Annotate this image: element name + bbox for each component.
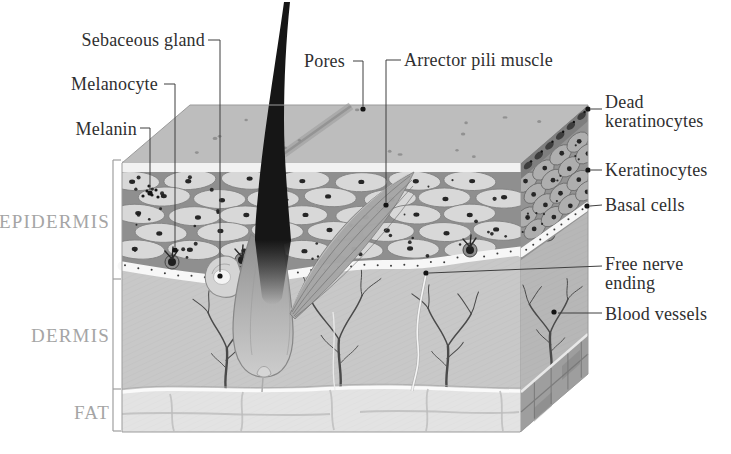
skin-surface [122,105,588,163]
leader-dot-arrector-pili [383,202,388,207]
leader-pores [353,61,363,106]
skin-anatomy-figure: { "diagram": { "type": "skin-cross-secti… [0,0,731,454]
leader-dot-pores [360,106,365,111]
layer-bracket [113,160,121,431]
leader-dot-melanocyte [172,247,177,252]
label-melanocyte: Melanocyte [71,75,158,94]
label-blood-vessels: Blood vessels [605,305,707,324]
label-layer-fat: FAT [74,402,110,424]
label-keratinocytes: Keratinocytes [605,161,708,180]
leader-dot-basal-cells [584,203,589,208]
label-layer-epidermis: EPIDERMIS [0,211,110,233]
label-arrector-pili-muscle: Arrector pili muscle [404,51,553,70]
leader-dot-sebaceous-gland [217,273,222,278]
papilla-stalk [262,377,263,392]
label-dead-keratinocytes: Dead keratinocytes [605,93,704,131]
label-pores: Pores [304,52,345,71]
label-melanin: Melanin [76,120,137,139]
leader-dot-blood-vessels [551,309,556,314]
leader-dot-keratinocytes [585,167,590,172]
leader-dot-melanin [147,190,152,195]
label-sebaceous-gland: Sebaceous gland [82,31,205,50]
label-layer-dermis: DERMIS [31,325,110,347]
leader-dot-dead-keratinocytes [585,106,590,111]
label-free-nerve-ending: Free nerve ending [605,255,683,293]
leader-dot-free-nerve-ending [423,270,428,275]
label-basal-cells: Basal cells [605,196,685,215]
